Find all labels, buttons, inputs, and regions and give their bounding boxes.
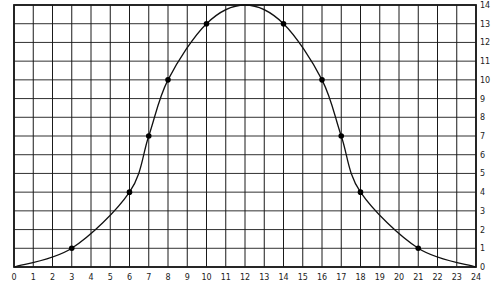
data-point [319, 77, 325, 83]
x-tick-label: 8 [165, 273, 170, 282]
data-point [415, 245, 421, 251]
x-tick-label: 15 [298, 273, 308, 282]
y-tick-label: 2 [480, 226, 485, 235]
grid-lines [14, 5, 476, 267]
y-tick-label: 5 [480, 169, 485, 178]
bell-curve-chart: 0123456789101112131415161718192021222324… [0, 0, 491, 286]
x-tick-label: 7 [146, 273, 151, 282]
x-tick-label: 12 [240, 273, 250, 282]
x-tick-label: 0 [11, 273, 16, 282]
x-tick-label: 20 [394, 273, 404, 282]
y-axis-tick-labels: 01234567891011121314 [480, 1, 490, 272]
y-tick-label: 12 [480, 38, 490, 47]
data-point [204, 21, 210, 27]
y-tick-label: 1 [480, 244, 485, 253]
data-point [358, 189, 364, 195]
x-tick-label: 19 [375, 273, 385, 282]
y-tick-label: 8 [480, 113, 485, 122]
x-tick-label: 11 [221, 273, 231, 282]
y-tick-label: 6 [480, 151, 485, 160]
y-tick-label: 7 [480, 132, 485, 141]
y-tick-label: 3 [480, 207, 485, 216]
x-axis-tick-labels: 0123456789101112131415161718192021222324 [11, 273, 481, 282]
y-tick-label: 14 [480, 1, 490, 10]
y-tick-label: 4 [480, 188, 485, 197]
y-tick-label: 13 [480, 20, 490, 29]
x-tick-label: 5 [108, 273, 113, 282]
data-point [69, 245, 75, 251]
y-tick-label: 0 [480, 263, 485, 272]
x-tick-label: 13 [259, 273, 269, 282]
data-point [338, 133, 344, 139]
x-tick-label: 17 [336, 273, 346, 282]
data-point [165, 77, 171, 83]
x-tick-label: 18 [355, 273, 365, 282]
y-tick-label: 10 [480, 76, 490, 85]
data-point [281, 21, 287, 27]
x-tick-label: 16 [317, 273, 327, 282]
y-tick-label: 11 [480, 57, 490, 66]
y-tick-label: 9 [480, 95, 485, 104]
x-tick-label: 14 [278, 273, 288, 282]
x-tick-label: 21 [413, 273, 423, 282]
data-point [146, 133, 152, 139]
data-point [127, 189, 133, 195]
x-tick-label: 24 [471, 273, 481, 282]
x-tick-label: 23 [452, 273, 462, 282]
x-tick-label: 4 [88, 273, 93, 282]
x-tick-label: 2 [50, 273, 55, 282]
x-tick-label: 1 [31, 273, 36, 282]
x-tick-label: 10 [201, 273, 211, 282]
x-tick-label: 3 [69, 273, 74, 282]
x-tick-label: 22 [432, 273, 442, 282]
x-tick-label: 6 [127, 273, 132, 282]
x-tick-label: 9 [185, 273, 190, 282]
